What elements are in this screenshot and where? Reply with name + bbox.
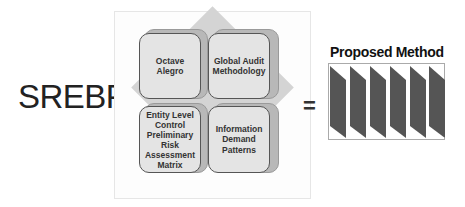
chevron-step-icon <box>350 66 366 138</box>
quadrant-information-demand-patterns: Information Demand Patterns <box>208 106 270 173</box>
quadrant-entity-level-control: Entity Level Control Preliminary Risk As… <box>139 106 201 173</box>
chevron-step-icon <box>429 66 445 138</box>
chevron-step-icon <box>390 66 406 138</box>
quadrant-global-audit-methodology: Global Audit Methodology <box>208 33 270 99</box>
chevron-step-icon <box>330 66 346 138</box>
proposed-method-title: Proposed Method <box>330 44 444 60</box>
proposed-method-box <box>328 63 445 140</box>
chevron-step-icon <box>410 66 426 138</box>
quadrant-octave-allegro: Octave Alegro <box>139 33 201 99</box>
chevron-step-icon <box>370 66 386 138</box>
equals-sign: = <box>303 93 316 119</box>
